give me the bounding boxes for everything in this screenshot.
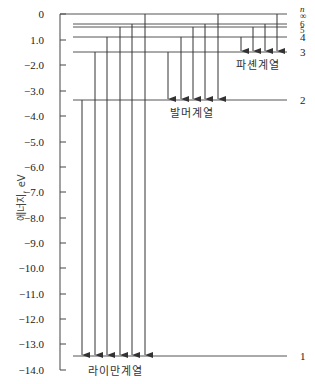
y-tick-label: −14.0 [4,364,44,376]
level-label-4: 4 [300,31,306,43]
y-tick-label: −3.0 [4,85,44,97]
y-tick-label: −9.0 [4,237,44,249]
lyman-series-arrows [82,14,145,355]
y-tick-label: 1.0 [4,34,44,46]
level-label-3: 3 [300,46,306,58]
level-label-2: 2 [300,94,306,106]
balmer-series-label: 발머계열 [170,104,214,120]
lyman-series-label: 라이만계열 [88,362,143,378]
y-tick-label: −4.0 [4,110,44,122]
y-axis-label: 에너지, eV [13,158,28,238]
paschen-series-label: 파셴계열 [236,56,280,72]
level-label-1: 1 [300,350,306,362]
y-axis [60,14,66,370]
paschen-series-arrows [241,14,277,51]
y-tick-label: −11.0 [4,288,44,300]
y-tick-label: −12.0 [4,313,44,325]
y-tick-label: −2.0 [4,59,44,71]
y-tick-label: 0 [4,8,44,20]
y-tick-label: −10.0 [4,262,44,274]
y-tick-label: −13.0 [4,338,44,350]
y-tick-label: −5.0 [4,136,44,148]
y-ticks [60,40,66,344]
